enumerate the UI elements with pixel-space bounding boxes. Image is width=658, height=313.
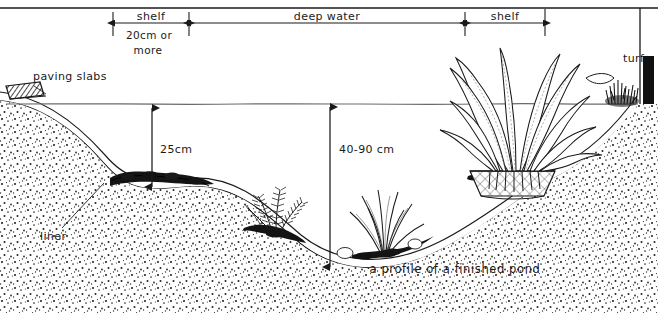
paving-slabs-edging: paving slabs xyxy=(6,70,107,99)
label-shelf-left-measure-line1: 20cm or xyxy=(126,29,173,41)
pond-profile-diagram: shelf 20cm or more deep water shelf xyxy=(0,0,658,313)
diagram-canvas: shelf 20cm or more deep water shelf xyxy=(0,0,658,313)
label-liner: liner xyxy=(40,230,66,243)
turf-callout: turf xyxy=(586,52,645,107)
label-shelf-left-measure-line2: more xyxy=(134,44,163,56)
label-25cm: 25cm xyxy=(160,143,192,156)
label-40-90cm: 40-90 cm xyxy=(339,143,394,156)
depth-dimension-deep-water: 40-90 cm xyxy=(330,107,399,267)
label-shelf-right: shelf xyxy=(491,10,520,23)
label-turf: turf xyxy=(623,52,645,65)
figure-caption: a profile of a finished pond xyxy=(370,262,541,276)
mesh-planting-basket xyxy=(470,171,555,199)
figure-caption-group: a profile of a finished pond xyxy=(370,262,541,276)
top-dimension-scale: shelf 20cm or more deep water shelf xyxy=(113,9,545,56)
label-deep-water: deep water xyxy=(294,10,360,23)
label-paving-slabs: paving slabs xyxy=(33,70,107,83)
label-shelf-left: shelf xyxy=(137,10,166,23)
marginal-plant-leaves xyxy=(440,48,602,171)
